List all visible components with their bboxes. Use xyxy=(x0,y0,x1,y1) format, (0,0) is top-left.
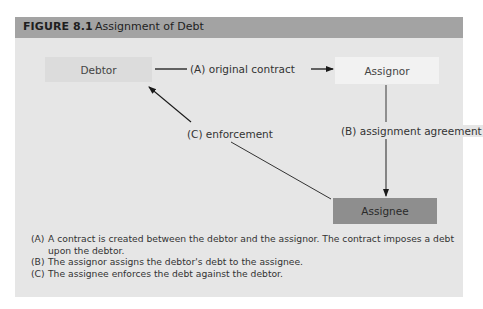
note-a-tag: (A) xyxy=(31,233,44,245)
edge-label-b: (B) assignment agreement xyxy=(340,125,483,137)
note-b-tag: (B) xyxy=(31,256,44,268)
edge-label-a: (A) original contract xyxy=(190,63,295,75)
note-c: (C) The assignee enforces the debt again… xyxy=(31,268,461,280)
note-c-tag: (C) xyxy=(31,268,45,280)
arrow-c-upper-segment xyxy=(149,87,191,122)
note-c-text: The assignee enforces the debt against t… xyxy=(48,268,283,279)
note-a: (A) A contract is created between the de… xyxy=(31,233,461,256)
node-debtor: Debtor xyxy=(45,57,152,82)
arrow-c-lower-segment xyxy=(231,142,331,199)
node-assignee: Assignee xyxy=(333,198,437,224)
note-b-text: The assignor assigns the debtor's debt t… xyxy=(48,256,303,267)
node-debtor-label: Debtor xyxy=(80,64,116,76)
legend-notes: (A) A contract is created between the de… xyxy=(31,233,461,279)
node-assignor: Assignor xyxy=(335,57,439,84)
note-b: (B) The assignor assigns the debtor's de… xyxy=(31,256,461,268)
node-assignor-label: Assignor xyxy=(364,65,409,77)
node-assignee-label: Assignee xyxy=(361,205,408,217)
note-a-text: A contract is created between the debtor… xyxy=(48,233,454,256)
edge-label-c: (C) enforcement xyxy=(187,128,273,140)
figure-panel: FIGURE 8.1 Assignment of Debt Debtor Ass… xyxy=(15,17,463,297)
